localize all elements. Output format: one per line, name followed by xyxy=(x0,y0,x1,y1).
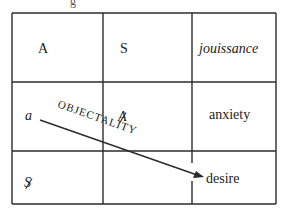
cell-r1c0: a xyxy=(25,108,32,124)
cell-r0c1: S xyxy=(120,41,128,57)
cell-r2c2: desire xyxy=(206,171,239,187)
objectality-diagram: g OBJECTALITY A S jouissance a A anxiety xyxy=(0,0,286,214)
cell-r0c2: jouissance xyxy=(199,41,258,57)
cell-r0c0: A xyxy=(38,41,48,57)
cell-r1c1-barred: A xyxy=(118,109,127,125)
arrowhead-icon xyxy=(193,171,204,178)
cell-r2c0-barred: S xyxy=(24,175,31,191)
cell-r1c2: anxiety xyxy=(209,107,250,123)
